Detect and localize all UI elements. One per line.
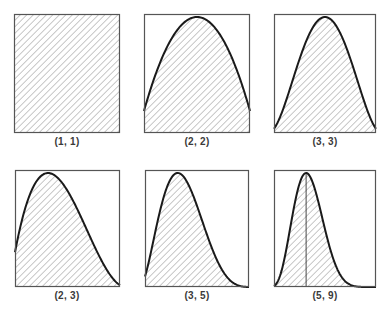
- plot-beta-3-5: [145, 170, 249, 287]
- panel-label: (3, 5): [144, 290, 250, 301]
- panel-label: (3, 3): [272, 136, 378, 147]
- panel-label: (2, 3): [14, 290, 120, 301]
- panel-label: (1, 1): [14, 136, 120, 147]
- plot-beta-2-3: [15, 170, 120, 287]
- plot-beta-1-1: [14, 14, 120, 133]
- density-fill: [145, 173, 249, 287]
- plot-beta-3-3: [274, 14, 376, 133]
- panel-label: (2, 2): [144, 136, 250, 147]
- plot-beta-5-9: [274, 170, 376, 287]
- panel-label: (5, 9): [272, 290, 378, 301]
- density-fill: [274, 17, 376, 133]
- panel-beta-1-1: [14, 14, 120, 133]
- density-fill: [144, 17, 250, 133]
- density-fill: [14, 14, 120, 133]
- panel-beta-3-3: [274, 14, 380, 133]
- panel-beta-3-5: [145, 170, 251, 287]
- panel-beta-2-3: [15, 170, 121, 287]
- panel-beta-5-9: [274, 170, 380, 287]
- plot-beta-2-2: [144, 14, 250, 133]
- panel-beta-2-2: [144, 14, 250, 133]
